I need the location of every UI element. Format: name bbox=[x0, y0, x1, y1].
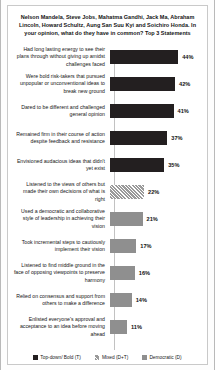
bar-value-label: 14% bbox=[136, 297, 147, 303]
chart-title: Nelson Mandela, Steve Jobs, Mahatma Gand… bbox=[17, 13, 198, 38]
bar bbox=[110, 131, 167, 145]
bar-row: Enlisted everyone's approval and accepta… bbox=[12, 314, 203, 341]
bar bbox=[110, 239, 136, 253]
bar-zone: 11% bbox=[110, 314, 203, 341]
legend-label: Democratic (D) bbox=[149, 355, 181, 360]
bar-value-label: 37% bbox=[171, 135, 182, 141]
bar-row-label: Dared to be different and challenged gen… bbox=[12, 104, 110, 119]
bar-row-label: Relied on consensus and support from oth… bbox=[12, 293, 110, 308]
bar-value-label: 44% bbox=[182, 54, 193, 60]
bar-row: Were bold risk-takers that pursued unpop… bbox=[12, 71, 203, 98]
bar bbox=[110, 293, 132, 307]
bar-value-label: 11% bbox=[131, 324, 142, 330]
bar-row: Had long lasting energy to see their pla… bbox=[12, 44, 203, 71]
bar-row-label: Were bold risk-takers that pursued unpop… bbox=[12, 73, 110, 95]
bar-row-label: Enlisted everyone's approval and accepta… bbox=[12, 316, 110, 338]
bar bbox=[110, 185, 144, 199]
bar-row: Listened to the views of others but made… bbox=[12, 179, 203, 206]
chart-frame: Nelson Mandela, Steve Jobs, Mahatma Gand… bbox=[0, 0, 215, 370]
bar-row: Remained firm in their course of action … bbox=[12, 125, 203, 152]
bar-row: Listened to find middle ground in the fa… bbox=[12, 260, 203, 287]
bar-row: Used a democratic and collaborative styl… bbox=[12, 206, 203, 233]
legend-swatch-icon bbox=[33, 355, 38, 360]
bar-row-label: Took incremental steps to cautiously imp… bbox=[12, 239, 110, 254]
chart-card: Nelson Mandela, Steve Jobs, Mahatma Gand… bbox=[7, 5, 208, 365]
legend-label: Mixed (D+T) bbox=[102, 355, 129, 360]
bar-row: Took incremental steps to cautiously imp… bbox=[12, 233, 203, 260]
bar-row: Envisioned audacious ideas that didn't y… bbox=[12, 152, 203, 179]
bar-value-label: 41% bbox=[178, 108, 189, 114]
bar-value-label: 22% bbox=[148, 189, 159, 195]
bar-value-label: 16% bbox=[139, 270, 150, 276]
bar bbox=[110, 266, 135, 280]
bar-zone: 44% bbox=[110, 44, 203, 71]
bar-zone: 35% bbox=[110, 152, 203, 179]
bar bbox=[110, 77, 175, 91]
bar-value-label: 17% bbox=[140, 243, 151, 249]
bar-zone: 21% bbox=[110, 206, 203, 233]
bar-row-label: Listened to find middle ground in the fa… bbox=[12, 262, 110, 284]
bar-zone: 16% bbox=[110, 260, 203, 287]
legend-label: Top-down/ Bold (T) bbox=[40, 355, 81, 360]
bar-value-label: 35% bbox=[168, 162, 179, 168]
legend-item[interactable]: Mixed (D+T) bbox=[95, 355, 129, 360]
legend-item[interactable]: Democratic (D) bbox=[142, 355, 181, 360]
bar bbox=[110, 212, 143, 226]
bar-row-label: Had long lasting energy to see their pla… bbox=[12, 46, 110, 68]
legend-swatch-icon bbox=[95, 355, 100, 360]
bar-zone: 42% bbox=[110, 71, 203, 98]
bar-value-label: 21% bbox=[147, 216, 158, 222]
chart-legend: Top-down/ Bold (T)Mixed (D+T)Democratic … bbox=[8, 355, 207, 360]
bar-zone: 41% bbox=[110, 98, 203, 125]
bar-value-label: 42% bbox=[179, 81, 190, 87]
bar bbox=[110, 104, 174, 118]
legend-swatch-icon bbox=[142, 355, 147, 360]
bar-zone: 17% bbox=[110, 233, 203, 260]
bar-zone: 37% bbox=[110, 125, 203, 152]
bar-zone: 22% bbox=[110, 179, 203, 206]
bar bbox=[110, 158, 164, 172]
bar-row-label: Listened to the views of others but made… bbox=[12, 181, 110, 203]
bar bbox=[110, 50, 178, 64]
bar-row: Relied on consensus and support from oth… bbox=[12, 287, 203, 314]
bar-row-label: Envisioned audacious ideas that didn't y… bbox=[12, 158, 110, 173]
bar-row: Dared to be different and challenged gen… bbox=[12, 98, 203, 125]
legend-item[interactable]: Top-down/ Bold (T) bbox=[33, 355, 81, 360]
bar bbox=[110, 320, 127, 334]
bar-rows: Had long lasting energy to see their pla… bbox=[8, 44, 207, 341]
bar-row-label: Remained firm in their course of action … bbox=[12, 131, 110, 146]
bar-row-label: Used a democratic and collaborative styl… bbox=[12, 208, 110, 230]
bar-zone: 14% bbox=[110, 287, 203, 314]
